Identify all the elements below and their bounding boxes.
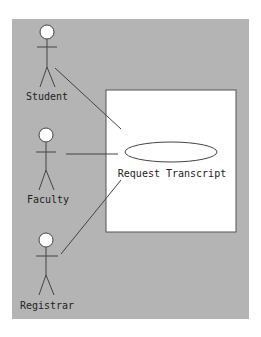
actor-label: Student: [26, 91, 68, 102]
actor-head-icon: [39, 233, 53, 247]
actor-label: Faculty: [27, 194, 69, 205]
use-case-ellipse: [125, 142, 217, 162]
actor-label: Registrar: [20, 300, 74, 311]
use-case-label: Request Transcript: [118, 168, 226, 179]
use-case-diagram: Request Transcript Student Faculty Regis…: [0, 0, 261, 337]
actor-head-icon: [40, 25, 54, 39]
actor-head-icon: [39, 128, 53, 142]
